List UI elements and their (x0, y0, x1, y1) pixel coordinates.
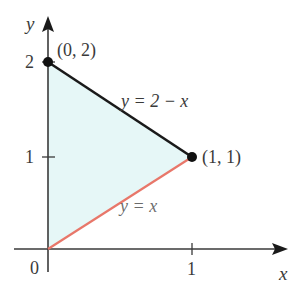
point-label-0-2: (0, 2) (57, 40, 96, 61)
point-0-2 (43, 57, 53, 67)
y-tick-label-1: 1 (25, 147, 34, 167)
y-tick-label-2: 2 (25, 52, 34, 72)
origin-label: 0 (30, 258, 39, 278)
curve-label-y-equals-x: y = x (118, 196, 157, 216)
x-axis-label: x (278, 263, 288, 284)
x-tick-label-1: 1 (187, 259, 196, 279)
y-axis-label: y (24, 13, 35, 34)
point-label-1-1: (1, 1) (202, 147, 241, 168)
region-diagram: y x 0 1 1 2 (0, 2) (1, 1) y = 2 − x y = … (0, 0, 298, 286)
point-1-1 (187, 152, 197, 162)
curve-label-y-equals-2-minus-x: y = 2 − x (119, 91, 188, 111)
